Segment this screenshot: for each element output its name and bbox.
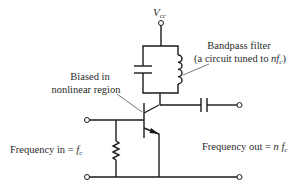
npn-transistor-icon — [144, 103, 159, 177]
bias-resistor-icon — [113, 141, 119, 160]
bias-label-line2: nonlinear region — [51, 84, 121, 95]
bandpass-tank — [134, 46, 182, 93]
vcc-terminal — [159, 21, 164, 26]
bias-leader-line — [117, 94, 142, 112]
output-ground-terminal — [237, 175, 242, 180]
frequency-multiplier-circuit: Vcc Biased in n — [0, 0, 299, 192]
tank-capacitor-icon — [134, 66, 152, 73]
input-ground-terminal — [85, 175, 90, 180]
output-capacitor-icon — [201, 98, 207, 112]
tank-inductor-icon — [178, 55, 182, 84]
vcc-label: Vcc — [153, 6, 167, 20]
filter-label-line1: Bandpass filter — [207, 40, 271, 51]
bias-label-line1: Biased in — [70, 71, 110, 82]
frequency-in-label: Frequency in = fc — [10, 144, 83, 157]
emitter-arrow-icon — [150, 128, 160, 134]
frequency-out-label: Frequency out = n fc — [202, 141, 288, 154]
input-terminal — [85, 118, 90, 123]
filter-leader-line — [183, 64, 209, 75]
output-terminal — [237, 103, 242, 108]
